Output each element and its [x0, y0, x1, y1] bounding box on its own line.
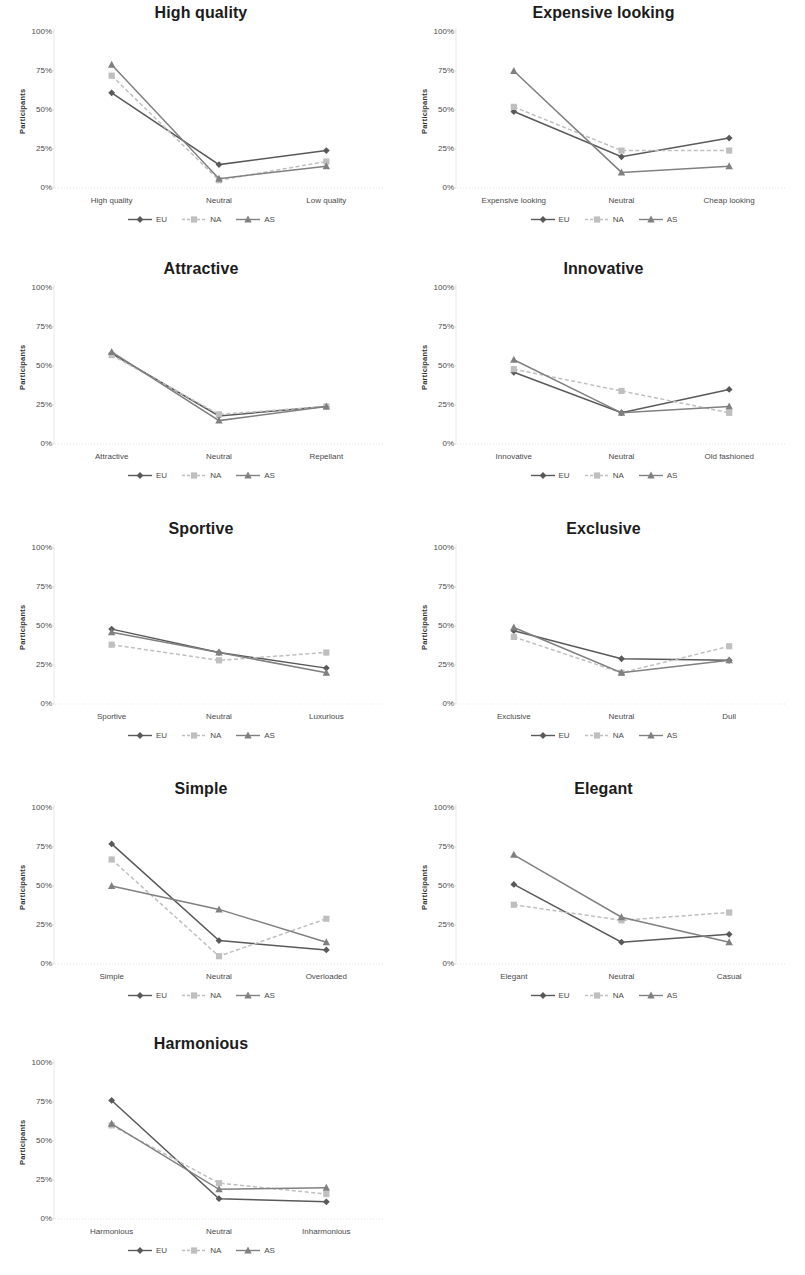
legend-label: EU [558, 991, 570, 1000]
legend-square-marker-icon [181, 730, 207, 741]
plot-area [0, 516, 402, 710]
x-tick-label: Neutral [159, 196, 279, 205]
legend-square-marker-icon [584, 214, 610, 225]
legend-label: NA [209, 1246, 221, 1255]
x-tick-label: Harmonious [52, 1227, 172, 1236]
x-tick-label: Cheap looking [669, 196, 789, 205]
legend-triangle-marker-icon [235, 730, 261, 741]
legend-triangle-marker-icon [638, 470, 664, 481]
legend-item-eu[interactable]: EU [127, 730, 167, 741]
chart-panel-harmonious: HarmoniousParticipants0%25%50%75%100%Har… [0, 1031, 402, 1275]
chart-legend: EU NA AS [0, 470, 402, 481]
plot-area [402, 776, 805, 970]
legend-triangle-marker-icon [235, 1245, 261, 1256]
legend-label: AS [666, 471, 678, 480]
legend-triangle-marker-icon [638, 214, 664, 225]
legend-item-as[interactable]: AS [235, 730, 275, 741]
chart-panel-exclusive: ExclusiveParticipants0%25%50%75%100%Excl… [402, 516, 805, 776]
legend-triangle-marker-icon [235, 470, 261, 481]
legend-item-as[interactable]: AS [235, 470, 275, 481]
legend-item-as[interactable]: AS [235, 1245, 275, 1256]
plot-area [0, 0, 402, 194]
legend-item-eu[interactable]: EU [530, 990, 570, 1001]
x-tick-label: Sportive [52, 712, 172, 721]
legend-diamond-marker-icon [530, 214, 556, 225]
legend-item-na[interactable]: NA [584, 990, 624, 1001]
legend-item-as[interactable]: AS [638, 214, 678, 225]
x-tick-label: Simple [52, 972, 172, 981]
chart-panel-elegant: ElegantParticipants0%25%50%75%100%Elegan… [402, 776, 805, 1031]
x-tick-label: Neutral [562, 712, 682, 721]
legend-label: NA [612, 731, 624, 740]
legend-triangle-marker-icon [638, 990, 664, 1001]
chart-legend: EU NA AS [0, 214, 402, 225]
legend-item-as[interactable]: AS [638, 470, 678, 481]
legend-item-eu[interactable]: EU [530, 470, 570, 481]
x-tick-label: Neutral [159, 1227, 279, 1236]
legend-item-eu[interactable]: EU [127, 214, 167, 225]
legend-item-na[interactable]: NA [584, 730, 624, 741]
x-tick-label: High quality [52, 196, 172, 205]
chart-panel-expensive-looking: Expensive lookingParticipants0%25%50%75%… [402, 0, 805, 256]
plot-area [402, 256, 805, 450]
legend-triangle-marker-icon [638, 730, 664, 741]
legend-item-eu[interactable]: EU [127, 990, 167, 1001]
legend-item-as[interactable]: AS [638, 990, 678, 1001]
x-tick-label: Elegant [454, 972, 574, 981]
legend-item-eu[interactable]: EU [530, 730, 570, 741]
legend-label: EU [155, 991, 167, 1000]
legend-item-na[interactable]: NA [181, 990, 221, 1001]
legend-label: EU [558, 471, 570, 480]
x-tick-label: Neutral [159, 972, 279, 981]
chart-legend: EU NA AS [0, 730, 402, 741]
x-tick-label: Neutral [159, 712, 279, 721]
legend-item-na[interactable]: NA [181, 470, 221, 481]
chart-legend: EU NA AS [0, 1245, 402, 1256]
legend-square-marker-icon [584, 470, 610, 481]
chart-legend: EU NA AS [402, 990, 805, 1001]
legend-label: EU [558, 731, 570, 740]
legend-label: EU [558, 215, 570, 224]
chart-panel-high-quality: High qualityParticipants0%25%50%75%100%H… [0, 0, 402, 256]
x-tick-label: Overloaded [266, 972, 386, 981]
legend-label: AS [666, 991, 678, 1000]
plot-area [402, 516, 805, 710]
legend-item-as[interactable]: AS [235, 214, 275, 225]
legend-label: AS [263, 471, 275, 480]
legend-item-as[interactable]: AS [638, 730, 678, 741]
chart-panel-attractive: AttractiveParticipants0%25%50%75%100%Att… [0, 256, 402, 516]
x-tick-label: Neutral [562, 452, 682, 461]
legend-item-na[interactable]: NA [181, 730, 221, 741]
legend-label: EU [155, 1246, 167, 1255]
legend-item-eu[interactable]: EU [530, 214, 570, 225]
legend-triangle-marker-icon [235, 214, 261, 225]
chart-legend: EU NA AS [402, 470, 805, 481]
legend-label: AS [263, 731, 275, 740]
x-tick-label: Exclusive [454, 712, 574, 721]
x-tick-label: Neutral [562, 196, 682, 205]
plot-area [0, 776, 402, 970]
legend-item-na[interactable]: NA [181, 214, 221, 225]
legend-label: AS [666, 215, 678, 224]
x-tick-label: Dull [669, 712, 789, 721]
legend-label: NA [209, 471, 221, 480]
legend-item-na[interactable]: NA [584, 470, 624, 481]
chart-legend: EU NA AS [0, 990, 402, 1001]
plot-area [402, 0, 805, 194]
legend-item-eu[interactable]: EU [127, 1245, 167, 1256]
x-tick-label: Old fashioned [669, 452, 789, 461]
legend-item-eu[interactable]: EU [127, 470, 167, 481]
legend-label: AS [666, 731, 678, 740]
legend-diamond-marker-icon [530, 990, 556, 1001]
chart-panel-sportive: SportiveParticipants0%25%50%75%100%Sport… [0, 516, 402, 776]
legend-item-na[interactable]: NA [584, 214, 624, 225]
x-tick-label: Expensive looking [454, 196, 574, 205]
legend-diamond-marker-icon [127, 1245, 153, 1256]
x-tick-label: Inharmonious [266, 1227, 386, 1236]
legend-label: AS [263, 215, 275, 224]
legend-label: AS [263, 1246, 275, 1255]
legend-diamond-marker-icon [530, 730, 556, 741]
legend-item-na[interactable]: NA [181, 1245, 221, 1256]
legend-item-as[interactable]: AS [235, 990, 275, 1001]
legend-label: NA [612, 991, 624, 1000]
